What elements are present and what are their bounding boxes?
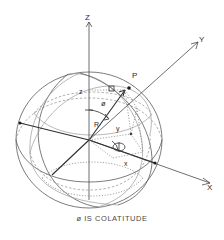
x-axis-label: X bbox=[207, 183, 213, 192]
angle-phi-arrow-b bbox=[104, 119, 109, 120]
spherical-coordinates-figure: Z Y X P z R y x ø ø IS COLATITUDE bbox=[0, 0, 224, 240]
xy-plane-guide-a bbox=[89, 140, 113, 158]
south-latitude-front bbox=[42, 178, 143, 196]
segment-y-label: y bbox=[116, 125, 120, 133]
neg-x-axis-segment bbox=[52, 140, 89, 175]
segment-x-label: x bbox=[124, 160, 128, 167]
y-axis-label: Y bbox=[199, 35, 205, 44]
point-P-label: P bbox=[132, 71, 138, 80]
axis-pierce-point-left bbox=[19, 122, 22, 125]
radius-vector-R bbox=[89, 90, 125, 140]
z-axis-arrow-right bbox=[89, 22, 92, 27]
axis-pierce-point-right bbox=[153, 161, 156, 164]
z-axis-arrow-left bbox=[86, 22, 89, 27]
point-P-marker bbox=[127, 86, 131, 90]
meridian-second-back bbox=[30, 73, 118, 205]
z-axis-label: Z bbox=[85, 13, 90, 22]
diagram-canvas: Z Y X P z R y x ø bbox=[0, 0, 224, 240]
p-vertical-drop bbox=[125, 90, 131, 134]
segment-z-label: z bbox=[79, 88, 83, 95]
angle-phi-label: ø bbox=[101, 99, 106, 108]
segment-R-label: R bbox=[94, 121, 99, 128]
figure-caption: ø IS COLATITUDE bbox=[0, 214, 224, 223]
